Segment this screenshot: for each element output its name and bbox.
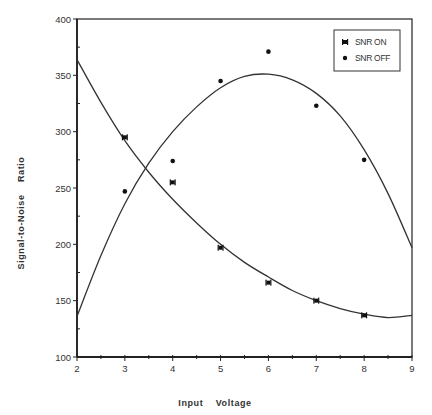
fit-curves bbox=[77, 60, 412, 318]
y-tick-label: 400 bbox=[55, 14, 71, 25]
legend-marker-snr-off-icon bbox=[343, 56, 347, 60]
snr-chart: 10015020025030035040023456789 SNR ON SNR… bbox=[0, 0, 432, 415]
y-tick-label: 250 bbox=[55, 183, 71, 194]
y-tick-label: 300 bbox=[55, 126, 71, 137]
snr-off-point bbox=[266, 49, 271, 54]
legend-label-snr-on: SNR ON bbox=[355, 37, 386, 47]
snr-off-point bbox=[218, 79, 223, 84]
snr-on-point bbox=[313, 298, 319, 304]
y-tick-label: 350 bbox=[55, 70, 71, 81]
y-tick-label: 100 bbox=[55, 352, 71, 363]
fit-curve-snr-off bbox=[77, 74, 412, 316]
snr-on-point bbox=[361, 312, 367, 318]
snr-on-point bbox=[122, 134, 128, 140]
legend: SNR ON SNR OFF bbox=[334, 30, 400, 71]
x-tick-label: 4 bbox=[170, 363, 175, 374]
snr-off-point bbox=[362, 158, 367, 163]
y-tick-label: 200 bbox=[55, 239, 71, 250]
snr-on-point bbox=[218, 245, 224, 251]
snr-on-point bbox=[265, 280, 271, 286]
fit-curve-snr-on bbox=[77, 60, 412, 318]
snr-off-point bbox=[123, 189, 128, 194]
legend-label-snr-off: SNR OFF bbox=[355, 53, 390, 63]
x-tick-label: 2 bbox=[74, 363, 79, 374]
x-tick-label: 6 bbox=[266, 363, 271, 374]
x-tick-label: 3 bbox=[122, 363, 127, 374]
x-tick-label: 8 bbox=[361, 363, 366, 374]
y-axis-title: Signal-to-Noise Ratio bbox=[16, 157, 26, 270]
snr-on-point bbox=[170, 179, 176, 185]
snr-off-point bbox=[314, 103, 319, 108]
x-axis-title: Input Voltage bbox=[178, 398, 251, 408]
x-tick-label: 5 bbox=[218, 363, 223, 374]
x-tick-label: 9 bbox=[409, 363, 414, 374]
snr-off-point bbox=[170, 159, 175, 164]
x-tick-label: 7 bbox=[314, 363, 319, 374]
y-tick-label: 150 bbox=[55, 295, 71, 306]
